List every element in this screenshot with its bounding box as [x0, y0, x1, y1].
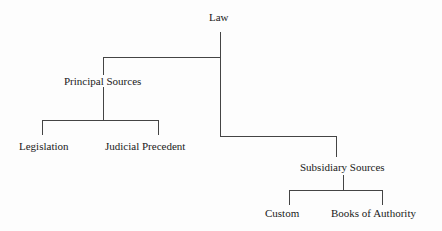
connector-subsidiary-drop: [336, 136, 337, 157]
node-law: Law: [208, 11, 230, 23]
law-sources-tree-diagram: Law Principal Sources Legislation Judici…: [0, 0, 442, 231]
connector-law-to-subsidiary: [220, 136, 337, 137]
connector-to-precedent: [158, 120, 159, 135]
connector-law-trunk: [220, 32, 221, 137]
connector-subsidiary-branch: [289, 190, 383, 191]
connector-to-custom: [289, 190, 290, 205]
connector-principal-stem: [103, 57, 104, 121]
connector-law-to-principal: [103, 57, 221, 58]
node-judicial-precedent: Judicial Precedent: [104, 140, 186, 152]
node-principal-sources: Principal Sources: [63, 75, 142, 87]
node-custom: Custom: [264, 207, 300, 219]
node-subsidiary-sources: Subsidiary Sources: [299, 161, 386, 173]
connector-subsidiary-stem: [343, 175, 344, 191]
connector-to-legislation: [42, 120, 43, 135]
node-legislation: Legislation: [18, 140, 70, 152]
connector-principal-branch: [42, 120, 159, 121]
node-books-of-authority: Books of Authority: [330, 207, 417, 219]
connector-to-books: [382, 190, 383, 205]
